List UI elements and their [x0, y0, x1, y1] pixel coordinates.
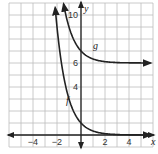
curves — [55, 4, 150, 135]
y-tick-label: 4 — [73, 82, 78, 92]
y-tick-label: 10 — [68, 10, 78, 20]
x-tick-label: 4 — [126, 137, 131, 147]
label-g: g — [93, 40, 98, 51]
x-tick-label: −4 — [28, 137, 38, 147]
x-axis-label: x — [150, 136, 156, 147]
y-axis-label: y — [83, 3, 89, 14]
x-tick-label: 2 — [102, 137, 107, 147]
exponential-graph: −4−2244610xyfg — [0, 0, 158, 154]
y-tick-label: 6 — [73, 58, 78, 68]
x-tick-label: −2 — [52, 137, 62, 147]
